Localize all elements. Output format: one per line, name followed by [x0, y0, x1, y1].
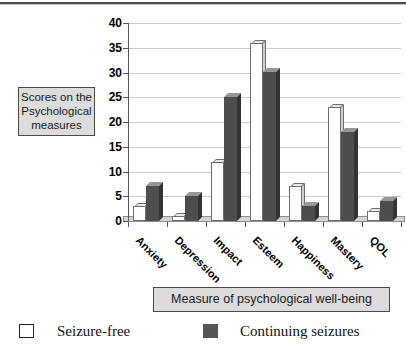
- bar-side-face: [198, 192, 202, 221]
- x-axis-tick: [362, 222, 363, 227]
- x-axis-tick: [206, 222, 207, 227]
- bar-side-face: [159, 182, 163, 221]
- y-tick-label: 30: [94, 65, 122, 81]
- y-axis-tick: [123, 97, 128, 98]
- bar-seizure-free-mastery: [328, 107, 341, 221]
- x-category-label: Mastery: [329, 234, 367, 272]
- bar-continuing-seizures-depression: [185, 196, 198, 221]
- x-axis-title-box: Measure of psychological well-being: [153, 287, 390, 312]
- legend-swatch-continuing-seizures: [203, 324, 218, 338]
- bar-continuing-seizures-mastery: [341, 132, 354, 221]
- bar-continuing-seizures-impact: [224, 97, 237, 221]
- bar-seizure-free-depression: [172, 216, 185, 221]
- y-tick-label: 35: [94, 40, 122, 56]
- bar-side-face: [354, 128, 358, 221]
- x-category-label: Impact: [212, 234, 246, 268]
- bar-side-face: [276, 68, 280, 221]
- y-axis-tick: [123, 172, 128, 173]
- legend-swatch-seizure-free: [19, 324, 34, 338]
- bar-continuing-seizures-happiness: [302, 206, 315, 221]
- y-tick-label: 20: [94, 114, 122, 130]
- bar-side-face: [393, 197, 397, 221]
- bar-seizure-free-anxiety: [133, 206, 146, 221]
- y-tick-label: 40: [94, 15, 122, 31]
- legend-label-continuing-seizures: Continuing seizures: [240, 323, 360, 340]
- y-axis-line: [128, 23, 129, 221]
- x-axis-tick: [245, 222, 246, 227]
- x-category-label: Esteem: [251, 234, 287, 270]
- y-tick-label: 0: [94, 213, 122, 229]
- y-tick-label: 5: [94, 188, 122, 204]
- y-axis-tick: [123, 147, 128, 148]
- y-axis-tick: [123, 48, 128, 49]
- x-category-label: QOL: [368, 234, 393, 259]
- gridline: [128, 23, 401, 24]
- bar-seizure-free-impact: [211, 162, 224, 221]
- y-axis-tick: [123, 196, 128, 197]
- bar-seizure-free-qol: [367, 211, 380, 221]
- y-axis-tick: [123, 122, 128, 123]
- figure-page: Scores on the Psychological measures 051…: [0, 0, 406, 351]
- legend-label-seizure-free: Seizure-free: [57, 323, 130, 340]
- legend: Seizure-free Continuing seizures: [0, 315, 406, 351]
- bar-seizure-free-happiness: [289, 186, 302, 221]
- y-tick-label: 15: [94, 139, 122, 155]
- x-axis-tick: [167, 222, 168, 227]
- y-tick-label: 25: [94, 89, 122, 105]
- x-axis-tick: [323, 222, 324, 227]
- y-axis-tick: [123, 23, 128, 24]
- y-tick-label: 10: [94, 164, 122, 180]
- x-axis-tick: [128, 222, 129, 227]
- x-axis-tick: [401, 222, 402, 227]
- y-axis-tick: [123, 73, 128, 74]
- bar-continuing-seizures-qol: [380, 201, 393, 221]
- bar-side-face: [237, 93, 241, 221]
- x-category-label: Anxiety: [134, 234, 171, 271]
- bar-continuing-seizures-anxiety: [146, 186, 159, 221]
- bar-seizure-free-esteem: [250, 43, 263, 221]
- x-axis-tick: [284, 222, 285, 227]
- bar-continuing-seizures-esteem: [263, 72, 276, 221]
